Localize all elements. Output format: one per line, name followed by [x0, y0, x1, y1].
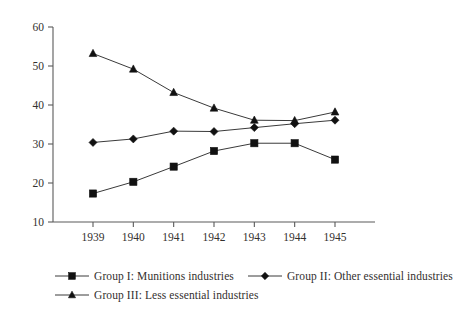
diamond-marker-icon [210, 128, 218, 136]
triangle-marker-icon [170, 88, 178, 95]
y-tick-label: 20 [33, 177, 45, 189]
y-axis-ticks [48, 27, 53, 222]
triangle-marker-icon [331, 108, 339, 115]
diamond-marker-icon [250, 124, 258, 132]
square-marker-icon [251, 140, 258, 147]
y-tick-label: 60 [33, 21, 45, 33]
legend-label: Group II: Other essential industries [287, 270, 453, 282]
diamond-marker-icon [129, 135, 137, 143]
y-tick-label: 30 [33, 138, 45, 150]
diamond-marker-icon [170, 127, 178, 135]
triangle-marker-icon [89, 49, 97, 56]
legend-label: Group III: Less essential industries [94, 289, 259, 301]
x-tick-label: 1940 [122, 231, 145, 243]
diamond-marker-icon [261, 272, 268, 279]
x-axis-ticks [93, 222, 335, 227]
legend-key-icon [248, 270, 282, 282]
legend-row: Group I: Munitions industriesGroup II: O… [0, 266, 439, 285]
square-marker-icon [291, 140, 298, 147]
square-marker-icon [69, 272, 76, 279]
legend-entry[interactable]: Group II: Other essential industries [248, 270, 453, 282]
x-tick-label: 1943 [243, 231, 266, 243]
series-group [89, 140, 338, 198]
series-group [89, 116, 339, 146]
diamond-marker-icon [331, 116, 339, 124]
y-tick-label: 40 [33, 99, 45, 111]
square-marker-icon [130, 178, 137, 185]
square-marker-icon [331, 156, 338, 163]
square-marker-icon [170, 163, 177, 170]
legend-entry[interactable]: Group I: Munitions industries [55, 270, 234, 282]
legend-key-icon [55, 289, 89, 301]
triangle [55, 289, 89, 301]
x-tick-label: 1939 [82, 231, 105, 243]
plot-area: 102030405060 193919401941194219431944194… [0, 0, 439, 266]
x-tick-label: 1942 [203, 231, 226, 243]
x-axis-tick-labels: 1939194019411942194319441945 [82, 231, 347, 243]
x-tick-label: 1945 [324, 231, 347, 243]
square-marker-icon [210, 147, 217, 154]
y-tick-label: 10 [33, 216, 45, 228]
diamond [248, 270, 282, 282]
diamond-marker-icon [89, 138, 97, 146]
legend-row: Group III: Less essential industries [0, 285, 439, 304]
square [55, 270, 89, 282]
triangle-marker-icon [68, 291, 75, 298]
x-tick-label: 1941 [162, 231, 185, 243]
square-marker-icon [89, 190, 96, 197]
legend-key-icon [55, 270, 89, 282]
chart-legend: Group I: Munitions industriesGroup II: O… [0, 266, 439, 304]
x-tick-label: 1944 [283, 231, 306, 243]
series-layer [89, 49, 339, 197]
y-tick-label: 50 [33, 60, 45, 72]
legend-label: Group I: Munitions industries [94, 270, 234, 282]
y-axis-tick-labels: 102030405060 [33, 21, 45, 228]
series-group [89, 49, 339, 123]
legend-entry[interactable]: Group III: Less essential industries [55, 289, 259, 301]
